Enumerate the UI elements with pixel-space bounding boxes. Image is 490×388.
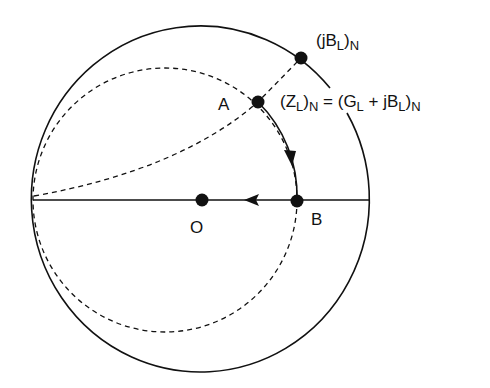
label-a: A [218, 95, 230, 114]
label-zl-normalized: (ZL)N = (GL + jBL)N [280, 92, 421, 114]
arrow-down-icon [284, 150, 296, 166]
smith-chart-diagram: A O B (jBL)N (ZL)N = (GL + jBL)N [0, 0, 490, 388]
point-b-dot [291, 195, 304, 208]
point-a-dot [252, 96, 265, 109]
label-jb-normalized: (jBL)N [316, 31, 359, 53]
label-b: B [311, 210, 322, 229]
point-o-dot [196, 194, 209, 207]
constant-susceptance-arc [34, 58, 301, 196]
point-jb-dot [295, 52, 308, 65]
label-o: O [190, 218, 203, 237]
